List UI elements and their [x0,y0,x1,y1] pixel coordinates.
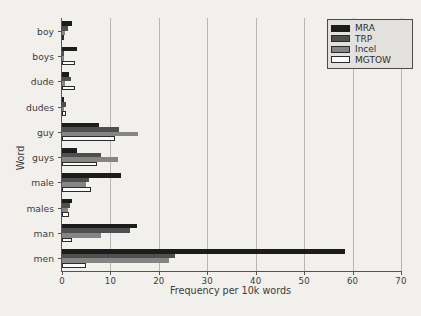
legend-item-incel: Incel [331,44,408,55]
x-axis-tick-label: 60 [347,276,358,286]
legend-label-mgtow: MGTOW [355,55,391,66]
bar-mgtow-boy [62,35,64,40]
legend-swatch-icon-incel [331,46,350,53]
x-gridline [256,18,257,271]
bar-mgtow-men [62,263,86,268]
y-axis-tick-label-guys: guys [32,152,54,163]
x-axis-tick [62,271,63,275]
y-axis-tick-label-male: male [31,177,54,188]
y-axis-tick-label-boys: boys [32,50,54,61]
legend-swatch-icon-trp [331,35,350,42]
legend-label-incel: Incel [355,44,376,55]
y-axis-title: Word [15,146,26,171]
bar-mgtow-man [62,238,72,243]
x-axis-tick [256,271,257,275]
x-axis-tick [207,271,208,275]
y-axis-tick-label-males: males [26,202,54,213]
x-axis-tick [159,271,160,275]
legend-item-trp: TRP [331,34,408,45]
x-axis-tick-label: 30 [202,276,213,286]
x-gridline [110,18,111,271]
x-axis-tick [304,271,305,275]
y-axis-tick-label-boy: boy [37,25,54,36]
x-gridline [159,18,160,271]
bar-mgtow-boys [62,61,75,66]
x-axis-tick-label: 20 [153,276,164,286]
x-axis-tick-label: 70 [395,276,406,286]
y-axis-tick-label-dudes: dudes [26,101,54,112]
x-axis-tick-label: 10 [105,276,116,286]
x-gridline [304,18,305,271]
x-axis-tick [353,271,354,275]
x-axis-tick-label: 50 [298,276,309,286]
x-axis-tick-label: 40 [250,276,261,286]
y-axis-tick-label-guy: guy [37,126,54,137]
bar-mgtow-dudes [62,111,66,116]
legend-swatch-icon-mra [331,25,350,32]
legend-label-mra: MRA [355,23,375,34]
chart-legend: MRA TRP Incel MGTOW [327,19,413,69]
legend-item-mgtow: MGTOW [331,55,408,66]
legend-label-trp: TRP [355,34,372,45]
y-axis-tick-label-dude: dude [31,76,54,87]
y-axis-tick-label-men: men [34,253,54,264]
bar-mgtow-males [62,212,69,217]
legend-item-mra: MRA [331,23,408,34]
bar-chart-figure: Word Frequency per 10k words 01020304050… [0,0,421,316]
bar-mgtow-guy [62,136,115,141]
bar-mgtow-male [62,187,91,192]
x-axis-title: Frequency per 10k words [61,285,400,296]
y-axis-tick-label-man: man [34,228,54,239]
bar-mgtow-guys [62,162,97,167]
x-axis-tick [110,271,111,275]
x-gridline [207,18,208,271]
legend-swatch-icon-mgtow [331,56,350,63]
x-axis-tick [401,271,402,275]
x-axis-tick-label: 0 [59,276,65,286]
bar-mgtow-dude [62,86,75,91]
